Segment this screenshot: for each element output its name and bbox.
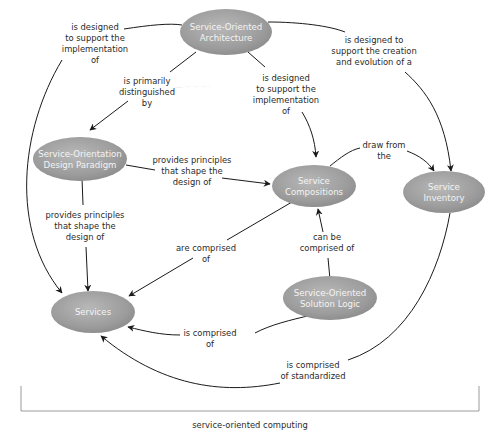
node-service-oriented-architecture[interactable]: Service-Oriented Architecture bbox=[180, 9, 272, 55]
edge-label-inventory-services: is comprised of standardized bbox=[280, 360, 345, 381]
node-label-line-1: Service-Orientation bbox=[38, 149, 122, 159]
edge-compositions-services-lower bbox=[129, 258, 193, 296]
edge-compositions-inventory-left bbox=[330, 148, 360, 166]
svg-text:design of: design of bbox=[173, 177, 213, 187]
node-label-line-2: Compositions bbox=[285, 187, 344, 197]
svg-text:and evolution of a: and evolution of a bbox=[336, 57, 412, 67]
node-service-compositions[interactable]: Service Compositions bbox=[272, 165, 356, 207]
edge-soa-sodp-lower bbox=[90, 101, 128, 130]
edge-sodp-services-upper bbox=[82, 178, 83, 205]
edge-compositions-services-upper bbox=[227, 202, 292, 240]
svg-text:of standardized: of standardized bbox=[280, 371, 345, 381]
svg-text:that shape the: that shape the bbox=[161, 166, 222, 176]
svg-text:can be: can be bbox=[313, 232, 341, 242]
edge-label-sosl-compositions: can be comprised of bbox=[300, 232, 356, 253]
edge-sosl-services-right bbox=[255, 315, 312, 333]
edge-soa-inventory-lower bbox=[405, 72, 451, 171]
node-label-line-2: Architecture bbox=[200, 33, 253, 43]
svg-text:draw from: draw from bbox=[363, 140, 406, 150]
node-services[interactable]: Services bbox=[51, 291, 135, 333]
node-label-line-2: Design Paradigm bbox=[44, 160, 117, 170]
edge-label-soa-inventory: is designed to support the creation and … bbox=[331, 35, 416, 67]
edge-label-sodp-compositions: provides principles that shape the desig… bbox=[153, 155, 232, 187]
svg-text:to support the: to support the bbox=[256, 84, 316, 94]
svg-text:the: the bbox=[377, 151, 391, 161]
svg-text:of: of bbox=[91, 55, 100, 65]
svg-text:design of: design of bbox=[66, 232, 106, 242]
node-label-line-1: Service bbox=[298, 176, 330, 186]
edge-label-soa-services: is designed to support the implementatio… bbox=[62, 22, 128, 65]
node-service-orientation-design-paradigm[interactable]: Service-Orientation Design Paradigm bbox=[33, 137, 127, 181]
svg-text:that shape the: that shape the bbox=[54, 221, 115, 231]
svg-text:implementation: implementation bbox=[253, 95, 319, 105]
edge-soa-inventory-upper bbox=[268, 22, 345, 32]
edge-soa-services bbox=[124, 24, 182, 29]
node-label-line-1: Service-Oriented bbox=[190, 22, 263, 32]
node-label-line-1: Service-Oriented bbox=[294, 288, 367, 298]
edge-label-sosl-services: is comprised of bbox=[183, 328, 236, 349]
svg-text:by: by bbox=[142, 98, 152, 108]
edge-sosl-compositions-upper bbox=[318, 209, 323, 232]
svg-text:is comprised: is comprised bbox=[183, 328, 236, 338]
svg-text:is designed to: is designed to bbox=[345, 35, 404, 45]
node-label-line-2: Inventory bbox=[423, 193, 464, 203]
svg-text:support the creation: support the creation bbox=[331, 46, 416, 56]
edge-label-compositions-services: are comprised of bbox=[176, 243, 236, 264]
edge-label-sodp-services: provides principles that shape the desig… bbox=[46, 210, 125, 242]
svg-text:of: of bbox=[206, 339, 215, 349]
edge-label-soa-compositions: is designed to support the implementatio… bbox=[253, 73, 319, 116]
edge-label-soa-sodp: is primarily distinguished by bbox=[119, 76, 175, 108]
svg-text:is designed: is designed bbox=[262, 73, 310, 83]
edge-sodp-compositions-left bbox=[126, 165, 155, 170]
concept-map: — ·· ·· ·· · Service-Oriented Architectu… bbox=[0, 0, 499, 438]
ghost-artifact: — ·· ·· ·· · bbox=[175, 83, 211, 92]
scope-bracket bbox=[21, 386, 479, 411]
node-label-line-1: Service bbox=[428, 182, 460, 192]
edge-inventory-services-lower bbox=[101, 336, 280, 388]
svg-text:distinguished: distinguished bbox=[119, 87, 175, 97]
node-service-inventory[interactable]: Service Inventory bbox=[403, 171, 485, 213]
edge-sodp-services-lower bbox=[86, 247, 88, 291]
svg-text:comprised of: comprised of bbox=[300, 243, 356, 253]
svg-text:implementation: implementation bbox=[62, 44, 128, 54]
svg-text:provides principles: provides principles bbox=[46, 210, 125, 220]
svg-text:of: of bbox=[202, 254, 211, 264]
svg-text:are comprised: are comprised bbox=[176, 243, 236, 253]
svg-text:of: of bbox=[282, 106, 291, 116]
svg-text:is comprised: is comprised bbox=[286, 360, 339, 370]
svg-text:to support the: to support the bbox=[65, 33, 125, 43]
node-label-line-2: Solution Logic bbox=[300, 299, 360, 309]
svg-text:is designed: is designed bbox=[71, 22, 119, 32]
edge-sosl-services-left bbox=[128, 327, 180, 335]
edge-soa-sodp-upper bbox=[170, 52, 196, 72]
svg-text:is primarily: is primarily bbox=[124, 76, 171, 86]
edge-soa-compositions-lower bbox=[302, 112, 316, 157]
edge-compositions-inventory-right bbox=[407, 151, 434, 171]
edge-sodp-compositions-right bbox=[222, 178, 270, 184]
edge-soa-compositions-upper bbox=[248, 52, 265, 67]
scope-label: service-oriented computing bbox=[192, 420, 308, 430]
svg-text:provides principles: provides principles bbox=[153, 155, 232, 165]
edge-label-compositions-inventory: draw from the bbox=[363, 140, 406, 161]
node-service-oriented-solution-logic[interactable]: Service-Oriented Solution Logic bbox=[283, 276, 377, 320]
node-label-line-1: Services bbox=[75, 307, 112, 317]
